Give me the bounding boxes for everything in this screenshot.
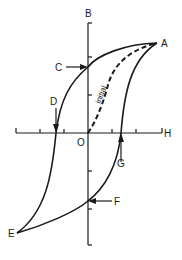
initial-curve-label: initial	[94, 84, 109, 104]
point-e-label: E	[8, 228, 15, 239]
b-axis	[88, 23, 92, 245]
point-a-label: A	[161, 38, 168, 49]
descending-branch	[17, 43, 157, 233]
point-f-label: F	[114, 196, 120, 207]
origin-label: O	[77, 137, 85, 148]
point-c-label: C	[55, 62, 62, 73]
hysteresis-diagram: B H O A C D E F G initial	[0, 0, 182, 260]
ascending-branch	[17, 43, 157, 233]
h-axis-label: H	[164, 128, 171, 139]
point-d-label: D	[50, 96, 57, 107]
b-axis-label: B	[85, 8, 92, 19]
point-g-label: G	[117, 158, 125, 169]
